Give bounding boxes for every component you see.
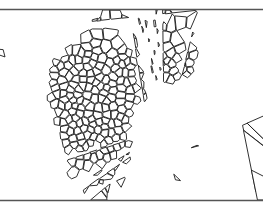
foam-cell	[157, 29, 158, 33]
foam-cell	[94, 170, 102, 175]
foam-cell	[160, 67, 161, 70]
foam-cell	[96, 118, 103, 125]
foam-cell	[141, 80, 144, 89]
foam-cell	[123, 68, 129, 77]
voronoi-cell-group	[0, 10, 263, 200]
foam-cell	[117, 178, 125, 188]
foam-cell	[72, 103, 78, 109]
foam-cell	[184, 63, 185, 66]
foam-cell	[140, 73, 144, 79]
foam-cell	[80, 76, 87, 82]
foam-cell	[119, 156, 124, 161]
foam-cell	[94, 103, 102, 113]
foam-cell	[0, 47, 5, 57]
foam-cell	[145, 21, 147, 28]
foam-cell	[134, 38, 137, 48]
foam-cell	[136, 49, 140, 57]
foam-structure-svg	[0, 0, 263, 208]
foam-cell	[138, 18, 140, 24]
foam-cell	[85, 51, 92, 57]
foam-cell	[128, 70, 135, 77]
foam-cell	[101, 10, 110, 20]
foam-cell	[151, 66, 153, 73]
foam-cell	[122, 15, 128, 18]
foam-cell	[126, 94, 135, 102]
foam-cell	[156, 10, 157, 14]
foam-cell	[84, 153, 91, 160]
foam-cell	[126, 153, 129, 155]
foam-cell	[90, 179, 100, 186]
foam-cell	[175, 16, 187, 30]
foam-cell	[154, 20, 156, 27]
foam-cell	[166, 14, 175, 32]
foam-cell	[158, 42, 159, 47]
foam-cell	[83, 186, 89, 193]
foam-cell	[163, 10, 166, 13]
foam-cell	[83, 160, 93, 171]
foam-cell	[191, 145, 198, 147]
foam-cell	[114, 165, 119, 171]
foam-cell	[163, 22, 167, 30]
foam-cell	[54, 117, 60, 126]
foam-cell	[116, 91, 126, 98]
foam-cell	[154, 51, 155, 55]
foam-cell	[95, 126, 102, 134]
foam-cell	[148, 39, 149, 42]
foam-cell	[101, 124, 109, 130]
foam-cell	[65, 45, 72, 56]
foam-cell	[186, 11, 197, 29]
foam-cell	[114, 126, 123, 134]
foam-cell	[156, 76, 157, 80]
foam-compression-figure	[0, 0, 263, 208]
foam-cell	[134, 34, 136, 38]
foam-cell	[67, 158, 76, 166]
foam-cell	[170, 10, 196, 13]
foam-cell	[123, 157, 131, 164]
foam-cell	[174, 175, 180, 181]
foam-cell	[110, 10, 122, 19]
foam-cell	[139, 65, 144, 72]
foam-cell	[142, 26, 144, 32]
foam-cell	[125, 141, 132, 147]
foam-cell	[67, 167, 79, 179]
foam-cell	[117, 77, 125, 85]
foam-cell	[122, 123, 132, 132]
foam-cell	[192, 32, 194, 36]
foam-cell	[163, 31, 171, 43]
foam-cell	[152, 59, 153, 64]
foam-cell	[76, 155, 83, 160]
foam-cell	[99, 180, 103, 184]
